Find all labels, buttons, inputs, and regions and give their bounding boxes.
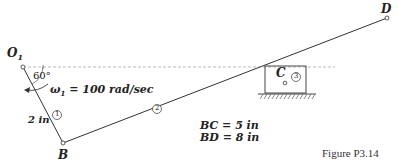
link-1-number: 1 [55, 111, 59, 118]
omega-arrowhead-icon [24, 87, 30, 93]
pin-d [385, 16, 389, 20]
ground-hatch [260, 94, 315, 99]
omega-label: ω1 = 100 rad/sec [50, 84, 154, 97]
point-b-label: B [58, 149, 68, 161]
pin-o1 [21, 65, 25, 69]
point-c-label: C [276, 67, 286, 79]
point-o1-label: O1 [7, 47, 23, 61]
dimension-bc: BC = 5 in [200, 120, 259, 131]
pin-c [283, 81, 287, 85]
pin-b [61, 141, 65, 145]
figure-caption: Figure P3.14 [322, 147, 379, 159]
link-3-number: 3 [294, 73, 298, 80]
angle-label: 60° [33, 71, 51, 81]
link-1-length-label: 2 in [28, 115, 50, 125]
point-d-label: D [381, 3, 391, 15]
link-2-number: 2 [155, 105, 159, 112]
dimension-bd: BD = 8 in [200, 132, 259, 143]
